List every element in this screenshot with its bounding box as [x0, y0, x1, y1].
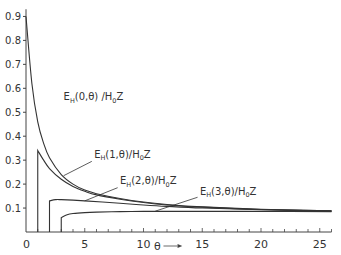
axes: 0.10.20.30.40.50.60.70.80.90510152025θ: [5, 9, 331, 253]
y-tick-label: 0.3: [5, 155, 21, 166]
series-label-1: EH(1,θ)/H0Z: [94, 149, 151, 163]
y-tick-label: 0.4: [5, 131, 21, 142]
x-tick-label: 10: [137, 238, 151, 251]
leader-line-1: [64, 161, 92, 175]
x-tick-label: 5: [81, 238, 88, 251]
y-tick-label: 0.8: [5, 35, 21, 46]
line-chart: 0.10.20.30.40.50.60.70.80.90510152025θ E…: [0, 0, 341, 255]
series-group: [26, 16, 332, 232]
chart-container: 0.10.20.30.40.50.60.70.80.90510152025θ E…: [0, 0, 341, 255]
series-line-1: [38, 151, 332, 232]
y-tick-label: 0.6: [5, 83, 21, 94]
x-axis-label: θ: [154, 240, 161, 253]
y-tick-label: 0.5: [5, 107, 21, 118]
leader-line-2: [85, 188, 118, 201]
y-tick-label: 0.9: [5, 11, 21, 22]
y-tick-label: 0.1: [5, 203, 21, 214]
series-label-3: EH(3,θ)/H0Z: [200, 186, 257, 200]
series-line-3: [61, 211, 331, 232]
series-line-0: [26, 16, 332, 210]
y-tick-label: 0.7: [5, 59, 21, 70]
x-tick-label: 25: [313, 238, 327, 251]
x-tick-label: 0: [23, 238, 30, 251]
x-tick-label: 20: [254, 238, 268, 251]
y-tick-label: 0.2: [5, 179, 21, 190]
series-line-2: [50, 200, 332, 232]
series-label-0: EH(0,θ) /H0Z: [64, 91, 124, 105]
x-tick-label: 15: [195, 238, 209, 251]
series-label-2: EH(2,θ)/H0Z: [120, 175, 177, 189]
